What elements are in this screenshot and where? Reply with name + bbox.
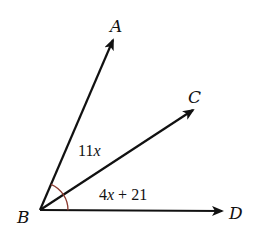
point-label-D: D [228,203,243,223]
angle-ABC-coef: 11 [78,142,93,159]
angle-CBD-rest: + 21 [114,186,147,203]
angle-label-ABC: 11x [78,142,101,159]
angle-label-CBD: 4x + 21 [99,186,147,203]
point-label-C: C [188,87,201,107]
angle-diagram: A C D B 11x 4x + 21 [0,0,256,237]
angle-CBD-var: x [106,186,114,203]
angle-ABC-var: x [92,142,100,159]
point-label-B: B [16,207,30,227]
angle-CBD-coef: 4 [99,186,107,203]
point-label-A: A [108,16,122,36]
ray-BD [40,210,222,211]
